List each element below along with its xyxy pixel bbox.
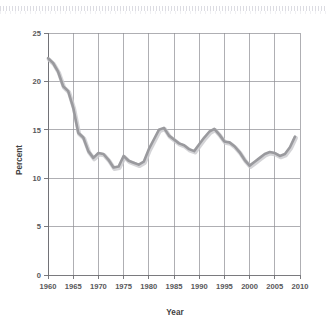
data-line-shadow	[49, 59, 296, 168]
y-tick-label: 5	[37, 222, 42, 231]
x-tick-label: 1980	[140, 282, 157, 291]
y-tick-label: 0	[37, 271, 41, 280]
y-tick-label: 10	[33, 174, 41, 183]
x-tick-label: 1995	[216, 282, 234, 291]
y-tick-label: 15	[33, 126, 42, 135]
x-tick-label: 1985	[166, 282, 184, 291]
data-series-layer	[48, 58, 296, 169]
x-tick-label: 1970	[90, 282, 107, 291]
gridlines	[48, 33, 300, 275]
y-tick-label: 25	[33, 29, 42, 38]
x-tick-label: 2010	[292, 282, 309, 291]
x-tick-label: 1990	[191, 282, 208, 291]
figure-container: 1960196519701975198019851990199520002005…	[0, 0, 327, 328]
x-tick-label: 1965	[65, 282, 83, 291]
y-tick-labels: 0510152025	[33, 29, 42, 280]
x-tick-label: 1975	[115, 282, 133, 291]
x-tick-label: 2000	[241, 282, 258, 291]
x-axis-title: Year	[166, 308, 184, 317]
x-tick-label: 2005	[266, 282, 284, 291]
x-tick-label: 1960	[40, 282, 57, 291]
data-line-percent	[48, 58, 295, 167]
y-axis-title: Percent	[15, 145, 24, 175]
y-tick-label: 20	[33, 77, 41, 86]
line-chart: 1960196519701975198019851990199520002005…	[0, 0, 327, 328]
x-tick-labels: 1960196519701975198019851990199520002005…	[40, 282, 309, 291]
